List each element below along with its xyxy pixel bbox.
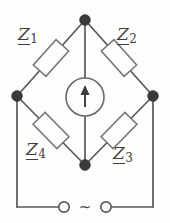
node-left <box>12 91 23 102</box>
source-terminal-left <box>59 202 69 212</box>
impedance-z1-label: Z1 <box>18 26 38 45</box>
impedance-z4-subscript: 4 <box>38 148 46 160</box>
node-bottom <box>80 160 91 171</box>
source-terminal-right <box>101 202 111 212</box>
node-top <box>80 15 91 26</box>
impedance-z2-label: Z2 <box>117 26 137 45</box>
impedance-z1-subscript: 1 <box>30 33 38 45</box>
ac-source: ~ <box>59 198 111 216</box>
circuit-diagram: ~ Z1 Z2 Z4 Z3 <box>0 0 170 223</box>
node-right <box>148 91 159 102</box>
impedance-z1-symbol: Z <box>18 26 30 45</box>
impedance-z2-subscript: 2 <box>129 33 137 45</box>
impedance-z3-label: Z3 <box>113 145 133 164</box>
galvanometer <box>66 78 104 116</box>
impedance-z3-subscript: 3 <box>125 152 133 164</box>
impedance-z4-label: Z4 <box>26 141 46 160</box>
impedance-z2-symbol: Z <box>117 26 129 45</box>
ac-source-tilde-icon: ~ <box>79 198 92 216</box>
impedance-z4-symbol: Z <box>26 141 38 160</box>
impedance-z3-symbol: Z <box>113 145 125 164</box>
